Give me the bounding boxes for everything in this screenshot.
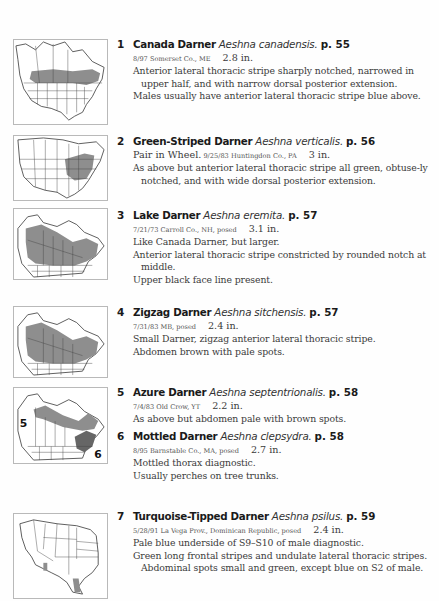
photo-info: 7/31/83 MB, posed (133, 323, 196, 331)
map-label-5: 5 (20, 417, 28, 430)
size: 2.2 in. (212, 400, 243, 411)
note: Males usually have anterior lateral thor… (133, 90, 433, 103)
photo-info: 5/28/91 La Vega Prov., Dominican Republi… (133, 527, 301, 535)
range-map-zigzag-darner (13, 306, 108, 378)
entry-number: 7 (117, 510, 133, 522)
species-entry-4: 4 Zigzag Darner Aeshna sitchensis. p. 57… (117, 306, 433, 358)
entry-number: 1 (117, 38, 133, 50)
species-entry-7: 7 Turquoise-Tipped Darner Aeshna psilus.… (117, 510, 433, 575)
photo-info: 8/97 Somerset Co., ME (133, 55, 210, 63)
note: Like Canada Darner, but larger. (133, 236, 433, 249)
note: Anterior lateral thoracic stripe constri… (133, 249, 433, 274)
entry-number: 4 (117, 306, 133, 318)
note: Upper black face line present. (133, 274, 433, 287)
note: As above but abdomen pale with brown spo… (133, 413, 433, 426)
entry-number: 6 (117, 430, 133, 442)
note: Green long frontal stripes and undulate … (133, 550, 433, 575)
size: 2.4 in. (208, 320, 239, 331)
photo-info: 7/21/73 Carroll Co., NH, posed (133, 226, 237, 234)
page-reference[interactable]: p. 59 (346, 510, 375, 522)
map-label-6: 6 (94, 448, 102, 461)
range-map-canada-darner (13, 39, 108, 125)
page-reference[interactable]: p. 58 (315, 430, 344, 442)
scientific-name: Aeshna eremita. (203, 209, 285, 221)
note: As above but anterior lateral thoracic s… (133, 162, 433, 187)
page-reference[interactable]: p. 55 (321, 38, 350, 50)
note: Mottled thorax diagnostic. (133, 457, 433, 470)
range-map-azure-mottled-darner: 5 6 (13, 387, 108, 464)
note: Small Darner, zigzag anterior lateral th… (133, 333, 433, 346)
entry-number: 3 (117, 209, 133, 221)
photo-info: 9/25/83 Huntingdon Co., PA (203, 152, 296, 160)
species-entry-5: 5 Azure Darner Aeshna septentrionalis. p… (117, 386, 433, 426)
species-entry-1: 1 Canada Darner Aeshna canadensis. p. 55… (117, 38, 433, 103)
scientific-name: Aeshna clepsydra. (220, 430, 311, 442)
page-reference[interactable]: p. 57 (288, 209, 317, 221)
common-name: Zigzag Darner (133, 306, 211, 318)
common-name: Turquoise-Tipped Darner (133, 510, 269, 522)
page-reference[interactable]: p. 56 (346, 135, 375, 147)
scientific-name: Aeshna sitchensis. (214, 306, 306, 318)
species-entry-6: 6 Mottled Darner Aeshna clepsydra. p. 58… (117, 430, 433, 482)
scientific-name: Aeshna verticalis. (255, 135, 343, 147)
size: 2.8 in. (222, 52, 253, 63)
note: Usually perches on tree trunks. (133, 470, 433, 483)
entry-number: 2 (117, 135, 133, 147)
common-name: Green-Striped Darner (133, 135, 252, 147)
entry-number: 5 (117, 386, 133, 398)
page-reference[interactable]: p. 58 (329, 386, 358, 398)
size: 2.7 in. (251, 444, 282, 455)
size: 3 in. (309, 149, 330, 160)
photo-info: 7/4/83 Old Crow, YT (133, 403, 200, 411)
range-map-turquoise-tipped-darner (13, 513, 108, 599)
photo-info: 8/95 Barnstable Co., MA, posed (133, 447, 239, 455)
note: Abdomen brown with pale spots. (133, 346, 433, 359)
scientific-name: Aeshna psilus. (272, 510, 343, 522)
page-reference[interactable]: p. 57 (309, 306, 338, 318)
size: 3.1 in. (249, 223, 280, 234)
note: Pale blue underside of S9–S10 of male di… (133, 537, 433, 550)
photo-caption: Pair in Wheel. (133, 149, 201, 160)
range-map-lake-darner (13, 208, 108, 280)
scientific-name: Aeshna septentrionalis. (209, 386, 326, 398)
scientific-name: Aeshna canadensis. (219, 38, 318, 50)
common-name: Mottled Darner (133, 430, 217, 442)
common-name: Azure Darner (133, 386, 206, 398)
common-name: Lake Darner (133, 209, 200, 221)
note: Anterior lateral thoracic stripe sharply… (133, 65, 433, 90)
common-name: Canada Darner (133, 38, 216, 50)
species-entry-3: 3 Lake Darner Aeshna eremita. p. 57 7/21… (117, 209, 433, 286)
species-entry-2: 2 Green-Striped Darner Aeshna verticalis… (117, 135, 433, 187)
size: 2.4 in. (313, 524, 344, 535)
range-map-green-striped-darner (13, 135, 108, 201)
